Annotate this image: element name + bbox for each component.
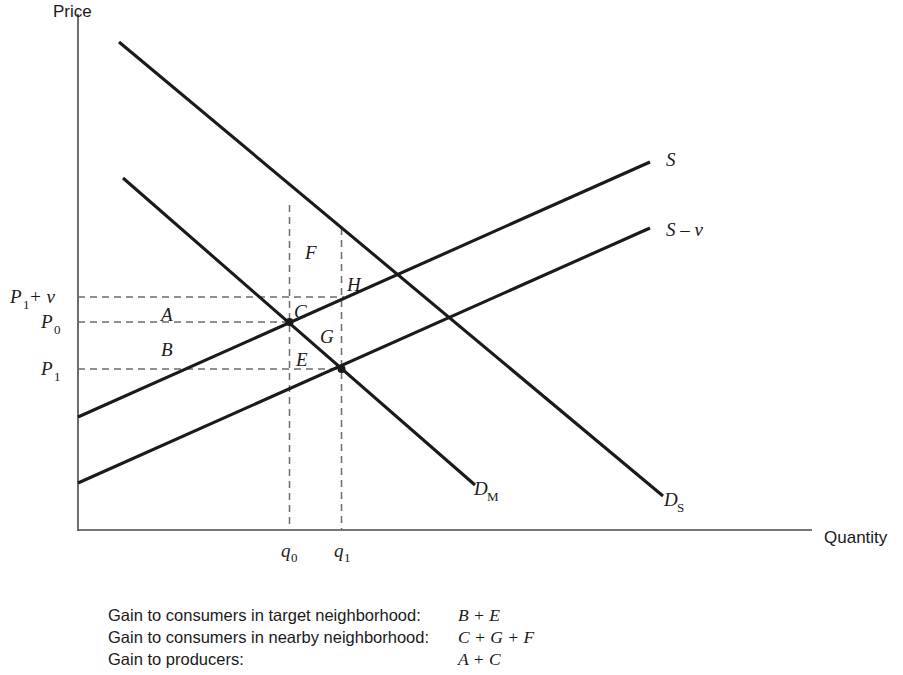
y-axis-title: Price <box>53 2 92 21</box>
curve-labels-group: S S – v D M D S <box>473 149 704 515</box>
region-label-e: E <box>295 349 308 370</box>
svg-text:1: 1 <box>344 550 351 565</box>
region-label-b: B <box>161 339 173 360</box>
legend-value: C + G + F <box>458 627 534 648</box>
legend-description: Gain to producers: <box>108 650 458 669</box>
region-label-f: F <box>304 242 317 263</box>
region-label-g: G <box>320 326 334 347</box>
svg-text:q: q <box>281 540 291 561</box>
equilibrium-point-c <box>286 318 294 326</box>
region-label-c: C <box>294 301 307 322</box>
x-axis-title: Quantity <box>824 528 888 547</box>
region-labels-group: A B C E F G H <box>159 242 362 370</box>
curve-label-supply: S <box>666 149 676 170</box>
svg-text:q: q <box>334 540 344 561</box>
svg-text:+ v: + v <box>29 286 56 307</box>
svg-text:M: M <box>487 489 499 504</box>
svg-text:S: S <box>677 500 684 515</box>
svg-text:0: 0 <box>291 550 298 565</box>
svg-text:D: D <box>663 489 678 510</box>
region-label-a: A <box>159 304 173 325</box>
equilibrium-point-lower <box>338 365 346 373</box>
supply-curve-s <box>78 162 650 417</box>
legend-row: Gain to producers: A + C <box>108 649 501 670</box>
curves-group <box>78 42 663 496</box>
price-tick-labels-group: P 1 + v P 0 P 1 <box>9 286 61 384</box>
curve-label-demand-subsidized: D S <box>663 489 684 515</box>
figure-root: Price Quantity S <box>0 0 903 675</box>
price-tick-p0: P 0 <box>40 311 61 337</box>
svg-text:P: P <box>9 286 22 307</box>
price-tick-p1-plus-v: P 1 + v <box>9 286 56 312</box>
svg-text:P: P <box>40 311 53 332</box>
legend-row: Gain to consumers in target neighborhood… <box>108 605 500 626</box>
legend-value: B + E <box>458 605 500 626</box>
price-tick-p1: P 1 <box>40 358 61 384</box>
legend-value: A + C <box>458 649 501 670</box>
quantity-tick-q1: q 1 <box>334 540 351 565</box>
legend-description: Gain to consumers in target neighborhood… <box>108 606 458 625</box>
quantity-tick-labels-group: q 0 q 1 <box>281 540 351 565</box>
economics-diagram: Price Quantity S <box>0 0 903 675</box>
curve-label-supply-minus-v: S – v <box>666 219 704 240</box>
svg-text:D: D <box>473 478 488 499</box>
svg-text:1: 1 <box>54 369 61 384</box>
legend-row: Gain to consumers in nearby neighborhood… <box>108 627 534 648</box>
axes-group <box>78 14 812 531</box>
curve-label-demand-market: D M <box>473 478 499 504</box>
legend-description: Gain to consumers in nearby neighborhood… <box>108 628 458 647</box>
svg-text:0: 0 <box>54 322 61 337</box>
svg-text:P: P <box>40 358 53 379</box>
region-label-h: H <box>346 274 362 295</box>
quantity-tick-q0: q 0 <box>281 540 298 565</box>
